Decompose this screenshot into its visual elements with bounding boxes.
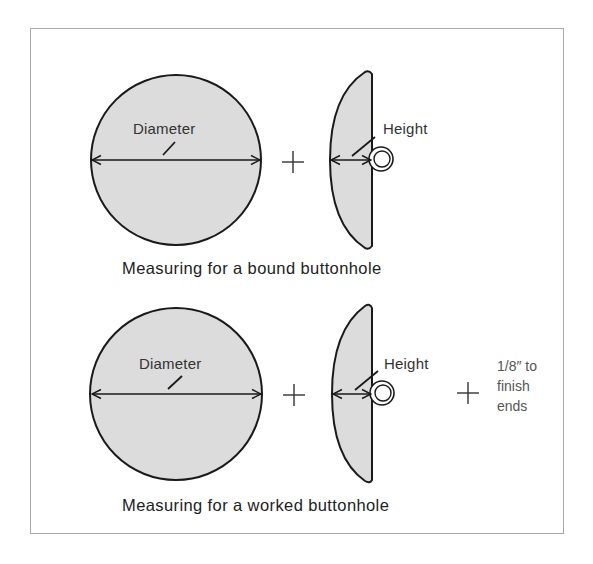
diameter-label: Diameter: [133, 120, 195, 137]
note-line: 1/8″ to: [497, 356, 537, 376]
plus-sign-3: [457, 382, 479, 404]
bound-caption: Measuring for a bound buttonhole: [122, 259, 382, 278]
plus-sign-2: [283, 384, 305, 406]
diameter-label: Diameter: [139, 355, 201, 372]
worked-button-front: [90, 308, 262, 480]
extra-note: 1/8″ to finish ends: [497, 356, 537, 416]
bound-button-front: [91, 75, 261, 245]
height-label: Height: [383, 120, 428, 137]
button-measurement-diagram: [0, 0, 593, 564]
note-line: ends: [497, 396, 537, 416]
worked-button-side: [332, 305, 394, 482]
height-label: Height: [384, 355, 429, 372]
worked-caption: Measuring for a worked buttonhole: [122, 496, 389, 515]
bound-button-side: [330, 71, 393, 248]
plus-sign-1: [282, 151, 304, 173]
note-line: finish: [497, 376, 537, 396]
